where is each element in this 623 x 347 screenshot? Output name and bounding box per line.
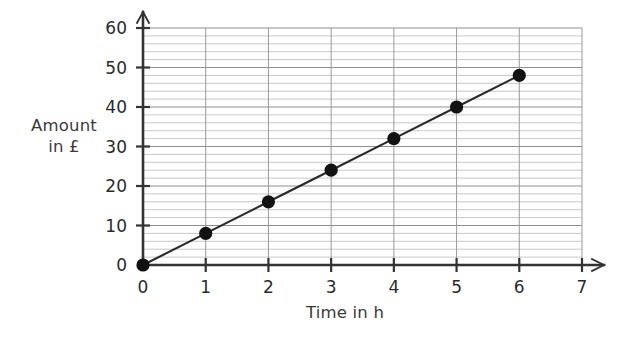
chart-figure: 0102030405060 01234567 Amountin £ Time i… [0,0,623,347]
x-tick-label: 3 [326,277,337,297]
y-tick-label: 20 [105,176,127,196]
y-axis-title-line: Amount [18,116,110,137]
x-tick-label: 2 [263,277,274,297]
y-axis-title-line: in £ [18,137,110,158]
data-point-marker [136,258,149,271]
data-point-marker [513,69,526,82]
y-axis-title: Amountin £ [18,116,110,157]
x-tick-label: 4 [388,277,399,297]
x-tick-label: 7 [577,277,588,297]
data-point-marker [262,195,275,208]
y-tick-label: 0 [116,255,127,275]
y-tick-label: 50 [105,58,127,78]
data-point-marker [387,132,400,145]
data-point-marker [450,100,463,113]
y-tick-label: 40 [105,97,127,117]
line-chart-plot: 0102030405060 01234567 [0,0,623,347]
data-point-marker [199,227,212,240]
x-tick-label: 0 [138,277,149,297]
y-tick-label: 60 [105,18,127,38]
x-tick-label: 1 [200,277,211,297]
data-point-marker [325,164,338,177]
x-tick-label: 6 [514,277,525,297]
x-axis-title: Time in h [268,303,422,324]
y-tick-label: 10 [105,216,127,236]
x-tick-label: 5 [451,277,462,297]
